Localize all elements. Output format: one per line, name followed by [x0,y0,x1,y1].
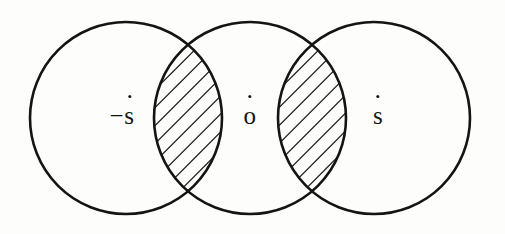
left-label-dot-icon [92,94,152,103]
right-label-dot-icon [348,94,408,103]
middle-label-text: o [220,103,280,128]
left-lens-hatching [150,0,226,234]
hatch-line [150,0,226,41]
right-region-label: s [348,94,408,128]
left-region-label: −s [92,94,152,128]
middle-region-label: o [220,94,280,128]
right-label-text: s [348,103,408,128]
middle-label-dot-icon [220,94,280,103]
hatch-line [150,1,226,77]
hatch-line [274,0,350,41]
left-label-text: −s [92,103,152,128]
hatch-line [274,163,350,234]
venn-diagram-figure: −s o s [0,0,505,234]
hatch-line [150,163,226,234]
right-lens-hatching [274,0,350,234]
hatch-line [274,1,350,77]
